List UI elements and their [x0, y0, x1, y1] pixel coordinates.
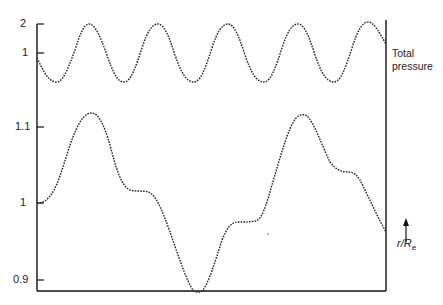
r-re-label-main: r/R: [397, 237, 412, 249]
total-pressure-curve: [37, 22, 386, 82]
chart-figure: 2 1 1.1 1 0.9 Total pressure r/Re: [0, 0, 443, 305]
r-re-label-sub: e: [412, 243, 416, 252]
tick-label-1-top: 1: [22, 47, 28, 58]
tick-label-1-bottom: 1: [20, 197, 26, 208]
tick-label-1.1: 1.1: [15, 121, 30, 132]
chart-canvas: [0, 0, 443, 305]
tick-label-2: 2: [20, 18, 26, 29]
tick-label-0.9: 0.9: [13, 274, 28, 285]
total-pressure-label: Total pressure: [392, 47, 433, 73]
total-pressure-label-line1: Total: [392, 47, 433, 60]
r-re-label: r/Re: [397, 237, 416, 252]
r-re-curve: [37, 113, 386, 292]
arrow-up-icon: [403, 218, 409, 226]
speck: [267, 233, 269, 235]
total-pressure-label-line2: pressure: [392, 60, 433, 73]
